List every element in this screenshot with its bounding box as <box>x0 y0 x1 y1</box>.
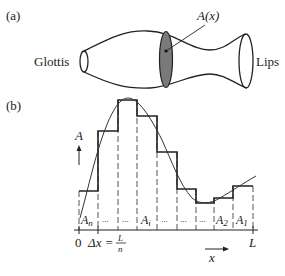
segment-dividers <box>79 100 253 230</box>
end-label: L <box>248 235 256 250</box>
svg-text:...: ... <box>180 214 187 224</box>
segment-label-a1: A1 <box>235 213 248 228</box>
svg-text:n: n <box>118 244 123 254</box>
segment-label-ai: Ai <box>140 213 151 228</box>
svg-text:...: ... <box>102 214 109 224</box>
svg-text:...: ... <box>122 214 129 224</box>
svg-text:L: L <box>117 233 123 243</box>
x-axis-label: x <box>208 250 215 265</box>
segment-labels: An ... ... Ai ... ... ... A2 A1 <box>80 213 248 228</box>
glottis-opening <box>80 51 88 72</box>
y-arrow-icon <box>77 145 82 165</box>
dx-label: Δx = <box>87 235 113 250</box>
cross-section-shaded <box>160 32 173 88</box>
pointer-line <box>166 25 205 51</box>
svg-text:...: ... <box>161 214 168 224</box>
svg-text:...: ... <box>199 214 206 224</box>
dx-fraction: L n <box>116 233 126 254</box>
area-curve <box>80 98 256 218</box>
area-function-label: A(x) <box>196 8 219 23</box>
panel-a-label: (a) <box>6 8 20 23</box>
vocal-tract-diagram: (a) Glottis Lips A(x) (b) A An <box>0 0 285 276</box>
segment-label-a2: A2 <box>215 213 228 228</box>
segment-label-an: An <box>80 213 93 228</box>
y-axis-label: A <box>74 128 83 143</box>
panel-b-label: (b) <box>6 98 21 113</box>
origin-label: 0 <box>75 235 82 250</box>
pointer-dot <box>164 49 167 52</box>
glottis-label: Glottis <box>34 54 69 69</box>
step-approximation <box>79 100 253 203</box>
lips-opening <box>239 34 253 88</box>
lips-label: Lips <box>256 54 279 69</box>
